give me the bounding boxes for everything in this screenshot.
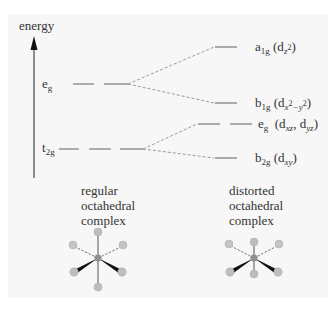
eg-regular-label: eg — [42, 77, 52, 91]
distorted-complex-caption: distorted octahedral complex — [229, 183, 283, 228]
b2g-label: b2g (dxy) — [255, 151, 297, 165]
energy-axis — [31, 36, 38, 178]
correlation-lines — [128, 47, 214, 158]
b1g-label: b1g (dx2−y2) — [255, 96, 311, 110]
eg-subscript: g — [48, 83, 53, 93]
a1g-label: a1g (dz2) — [255, 40, 296, 54]
regular-octahedron-icon — [69, 228, 127, 291]
energy-axis-label: energy — [19, 19, 54, 33]
arrow-up-icon — [31, 36, 38, 50]
distorted-octahedron-icon — [225, 238, 283, 278]
regular-complex-caption: regular octahedral complex — [81, 183, 135, 228]
t2g-subscript: 2g — [46, 147, 55, 157]
t2g-regular-label: t2g — [42, 141, 55, 155]
eg-distorted-label: eg (dxz, dyz) — [258, 117, 318, 131]
